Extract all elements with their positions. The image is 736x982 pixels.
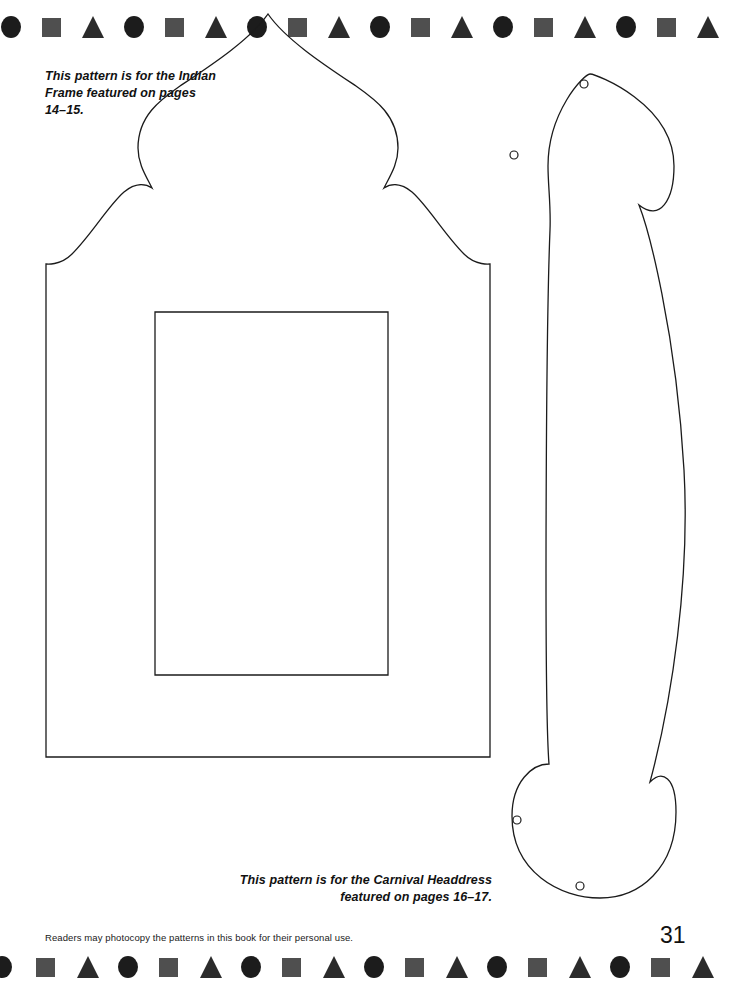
triangle-icon [692, 956, 714, 978]
circle-icon [487, 956, 507, 978]
square-icon [159, 958, 178, 977]
triangle-icon [200, 956, 222, 978]
carnival-headdress-outline [512, 74, 685, 898]
border-shape-group-bottom [0, 956, 714, 978]
circle-icon [370, 16, 390, 38]
square-icon [411, 18, 430, 37]
triangle-icon [77, 956, 99, 978]
circle-icon [118, 956, 138, 978]
decorative-border-bottom [0, 952, 736, 982]
triangle-icon [446, 956, 468, 978]
square-icon [36, 958, 55, 977]
circle-icon [1, 16, 21, 38]
triangle-icon [328, 16, 350, 38]
indian-frame-aperture [155, 312, 388, 675]
decorative-border-top [0, 12, 736, 42]
square-icon [528, 958, 547, 977]
circle-icon [364, 956, 384, 978]
square-icon [534, 18, 553, 37]
punch-hole-icon [580, 80, 588, 88]
circle-icon [616, 16, 636, 38]
border-shape-group-top [1, 16, 719, 38]
triangle-icon [574, 16, 596, 38]
circle-icon [241, 956, 261, 978]
square-icon [651, 958, 670, 977]
triangle-icon [569, 956, 591, 978]
triangle-icon [323, 956, 345, 978]
square-icon [288, 18, 307, 37]
triangle-icon [82, 16, 104, 38]
carnival-headdress-pattern [510, 74, 685, 898]
circle-icon [124, 16, 144, 38]
triangle-icon [451, 16, 473, 38]
indian-frame-outline [46, 14, 490, 757]
square-icon [165, 18, 184, 37]
indian-frame-pattern [46, 14, 490, 757]
circle-icon [0, 956, 12, 978]
punch-hole-icon [510, 151, 518, 159]
circle-icon [493, 16, 513, 38]
footer-permission-note: Readers may photocopy the patterns in th… [45, 932, 353, 943]
triangle-icon [697, 16, 719, 38]
square-icon [42, 18, 61, 37]
caption-indian-frame: This pattern is for the Indian Frame fea… [45, 68, 275, 119]
square-icon [405, 958, 424, 977]
square-icon [282, 958, 301, 977]
pattern-artwork-layer [0, 0, 736, 982]
punch-hole-icon [576, 882, 584, 890]
circle-icon [610, 956, 630, 978]
circle-icon [247, 16, 267, 38]
square-icon [657, 18, 676, 37]
punch-hole-icon [513, 816, 521, 824]
document-page: This pattern is for the Indian Frame fea… [0, 0, 736, 982]
caption-carnival-headdress: This pattern is for the Carnival Headdre… [230, 872, 492, 906]
triangle-icon [205, 16, 227, 38]
page-number: 31 [660, 922, 700, 949]
